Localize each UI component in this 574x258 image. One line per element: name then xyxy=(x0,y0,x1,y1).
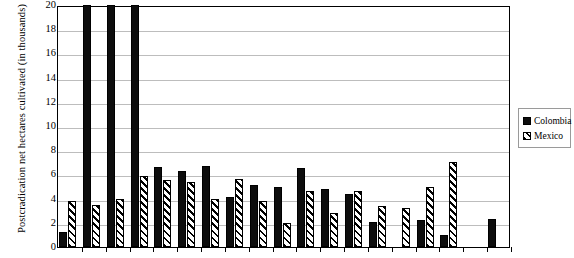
bar-colombia xyxy=(369,222,377,247)
bar-group xyxy=(439,7,463,247)
y-axis-tick-label: 2 xyxy=(30,218,56,229)
legend: Colombia Mexico xyxy=(518,108,571,148)
bar-colombia xyxy=(107,5,115,247)
legend-item-mexico: Mexico xyxy=(523,128,567,143)
bar-group xyxy=(416,7,440,247)
y-axis-tick-label: 18 xyxy=(30,24,56,35)
bar-mexico xyxy=(140,176,148,247)
y-axis-tick-label: 10 xyxy=(30,121,56,132)
x-axis-tick xyxy=(153,247,154,252)
bar-group xyxy=(368,7,392,247)
y-axis-tick-label: 20 xyxy=(30,0,56,11)
bar-colombia xyxy=(178,171,186,247)
bar-colombia xyxy=(59,232,67,247)
bar-mexico xyxy=(259,201,267,247)
x-axis-tick xyxy=(463,247,464,252)
bar-group xyxy=(487,7,511,247)
legend-item-label: Colombia xyxy=(534,116,571,126)
legend-item-colombia: Colombia xyxy=(523,113,567,128)
bar-group xyxy=(296,7,320,247)
bar-group xyxy=(249,7,273,247)
bar-group xyxy=(344,7,368,247)
bar-group xyxy=(82,7,106,247)
y-axis-tick-label: 0 xyxy=(30,242,56,253)
bar-mexico xyxy=(283,223,291,247)
bar-group xyxy=(106,7,130,247)
x-axis-tick xyxy=(487,247,488,252)
bar-colombia xyxy=(274,187,282,248)
bar-colombia xyxy=(297,168,305,247)
bar-mexico xyxy=(68,201,76,247)
bar-group xyxy=(201,7,225,247)
bar-group xyxy=(225,7,249,247)
x-axis-tick xyxy=(82,247,83,252)
legend-item-label: Mexico xyxy=(534,131,563,141)
bar-colombia xyxy=(417,220,425,247)
x-axis-tick xyxy=(130,247,131,252)
bar-colombia xyxy=(83,5,91,247)
bar-colombia xyxy=(345,194,353,247)
bar-colombia xyxy=(131,5,139,247)
bar-mexico xyxy=(402,208,410,247)
bar-mexico xyxy=(426,187,434,248)
bar-colombia xyxy=(440,235,448,247)
bar-colombia xyxy=(202,166,210,247)
x-axis-tick xyxy=(273,247,274,252)
y-axis-tick-label: 12 xyxy=(30,97,56,108)
bar-mexico xyxy=(116,199,124,247)
x-axis-tick xyxy=(296,247,297,252)
bar-colombia xyxy=(321,189,329,247)
hatched-square-icon xyxy=(523,132,531,140)
x-axis-tick xyxy=(320,247,321,252)
x-axis-tick xyxy=(416,247,417,252)
bar-mexico xyxy=(163,180,171,247)
y-axis-tick-label: 16 xyxy=(30,48,56,59)
bar-mexico xyxy=(92,205,100,247)
bar-group xyxy=(177,7,201,247)
x-axis-tick xyxy=(344,247,345,252)
bar-chart: Postcradication net hectares cultivated … xyxy=(0,0,574,258)
bar-mexico xyxy=(378,206,386,247)
bar-mexico xyxy=(235,179,243,247)
bar-colombia xyxy=(250,185,258,247)
bar-group xyxy=(58,7,82,247)
bar-mexico xyxy=(354,191,362,247)
x-axis-tick xyxy=(225,247,226,252)
bar-mexico xyxy=(449,162,457,247)
bar-group xyxy=(130,7,154,247)
bar-mexico xyxy=(330,213,338,247)
x-axis-tick xyxy=(392,247,393,252)
bar-colombia xyxy=(226,197,234,247)
y-axis-tick-label: 8 xyxy=(30,145,56,156)
x-axis-tick xyxy=(177,247,178,252)
bar-colombia xyxy=(488,219,496,247)
bar-mexico xyxy=(187,182,195,247)
x-axis-tick xyxy=(249,247,250,252)
y-axis-tick-label: 14 xyxy=(30,73,56,84)
x-axis-tick xyxy=(201,247,202,252)
x-axis-tick xyxy=(368,247,369,252)
y-axis-tick-label: 4 xyxy=(30,194,56,205)
x-axis-tick xyxy=(106,247,107,252)
bar-group xyxy=(273,7,297,247)
solid-square-black-icon xyxy=(523,117,531,125)
bar-group xyxy=(463,7,487,247)
bar-group xyxy=(320,7,344,247)
bar-group xyxy=(153,7,177,247)
bar-colombia xyxy=(154,167,162,247)
bar-groups xyxy=(58,7,509,247)
bar-mexico xyxy=(211,199,219,247)
plot-area xyxy=(57,6,510,248)
y-axis-tick-label: 6 xyxy=(30,169,56,180)
bar-mexico xyxy=(306,191,314,247)
x-axis-tick xyxy=(439,247,440,252)
bar-group xyxy=(392,7,416,247)
y-axis-title: Postcradication net hectares cultivated … xyxy=(16,0,27,244)
x-axis-tick xyxy=(511,247,512,252)
